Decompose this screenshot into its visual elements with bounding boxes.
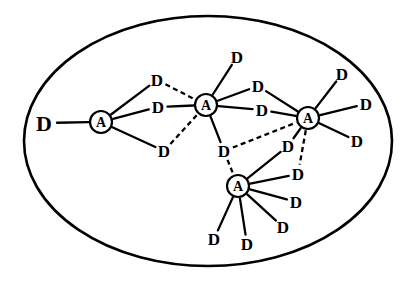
diagram-canvas: DDDDDDDDDDDDDDDDDAAAA bbox=[0, 0, 411, 283]
device-node-d10[interactable]: D bbox=[360, 95, 372, 114]
edge-a4-d15 bbox=[247, 194, 276, 220]
device-node-d9[interactable]: D bbox=[336, 65, 348, 84]
agent-label: A bbox=[96, 115, 107, 130]
edge-a3-d11 bbox=[319, 123, 348, 137]
agent-node-a2[interactable]: A bbox=[195, 94, 217, 116]
edge-a3-d13 bbox=[300, 130, 306, 164]
network-diagram: DDDDDDDDDDDDDDDDDAAAA bbox=[0, 0, 411, 283]
edge-d8-a4 bbox=[228, 160, 234, 175]
device-node-d7[interactable]: D bbox=[256, 101, 268, 120]
edge-a4-d12 bbox=[248, 152, 281, 178]
agent-label: A bbox=[303, 111, 314, 126]
device-node-d8[interactable]: D bbox=[218, 142, 230, 161]
node-layer: DDDDDDDDDDDDDDDDDAAAA bbox=[36, 48, 372, 254]
device-node-d15[interactable]: D bbox=[277, 218, 289, 237]
device-node-d3[interactable]: D bbox=[152, 98, 164, 117]
edge-a4-d17 bbox=[218, 197, 233, 230]
device-node-d5[interactable]: D bbox=[231, 48, 243, 67]
edge-a3-d9 bbox=[316, 82, 337, 109]
device-node-d4[interactable]: D bbox=[158, 142, 170, 161]
edge-a1-d4 bbox=[112, 127, 155, 147]
device-node-d2[interactable]: D bbox=[151, 71, 163, 90]
edge-d7-a3 bbox=[271, 112, 295, 116]
agent-node-a3[interactable]: A bbox=[297, 107, 319, 129]
edge-d4-a2 bbox=[170, 114, 197, 144]
edge-layer bbox=[57, 65, 357, 235]
edge-a4-d13 bbox=[250, 176, 288, 184]
device-node-d16[interactable]: D bbox=[241, 235, 253, 254]
device-node-d12[interactable]: D bbox=[282, 137, 294, 156]
edge-a2-d8 bbox=[211, 117, 221, 143]
device-node-d6[interactable]: D bbox=[252, 77, 264, 96]
edge-a2-d7 bbox=[218, 106, 252, 109]
device-node-d11[interactable]: D bbox=[351, 132, 363, 151]
edge-d6-a3 bbox=[266, 91, 297, 111]
agent-node-a1[interactable]: A bbox=[90, 111, 112, 133]
agent-label: A bbox=[233, 179, 244, 194]
edge-d3-a2 bbox=[167, 106, 193, 107]
device-node-d17[interactable]: D bbox=[208, 230, 220, 249]
device-node-d14[interactable]: D bbox=[290, 193, 302, 212]
edge-a2-d6 bbox=[218, 89, 249, 100]
edge-a3-d12 bbox=[294, 128, 301, 138]
device-node-d1[interactable]: D bbox=[36, 111, 52, 136]
edge-a4-d16 bbox=[240, 198, 246, 234]
edge-a2-d5 bbox=[213, 65, 232, 95]
edge-a3-d10 bbox=[320, 106, 357, 115]
edge-d1-a1 bbox=[57, 122, 89, 123]
agent-node-a4[interactable]: A bbox=[227, 175, 249, 197]
edge-a4-d14 bbox=[250, 189, 287, 199]
boundary-ellipse bbox=[24, 16, 392, 266]
device-node-d13[interactable]: D bbox=[292, 165, 304, 184]
edge-a1-d3 bbox=[113, 109, 149, 118]
edge-d2-a2 bbox=[165, 84, 194, 99]
agent-label: A bbox=[201, 98, 212, 113]
